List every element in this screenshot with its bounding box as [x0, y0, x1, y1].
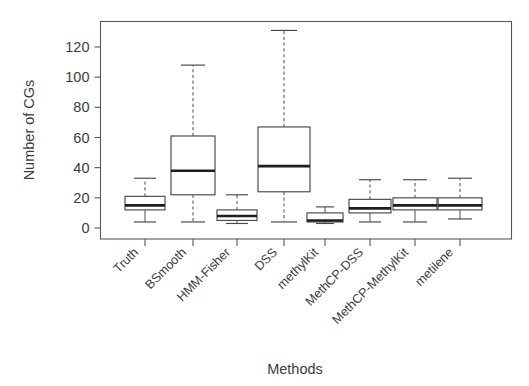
boxplot-metilene: [438, 178, 482, 219]
y-tick-label: 40: [73, 160, 89, 176]
boxplot-bsmooth: [171, 65, 215, 222]
y-tick-label: 80: [73, 99, 89, 115]
box-iqr: [258, 127, 310, 192]
x-tick-label: DSS: [252, 245, 280, 273]
y-tick-label: 60: [73, 130, 89, 146]
x-tick-label: MethCP-MethylKit: [329, 245, 411, 327]
y-tick-label: 120: [65, 39, 89, 55]
boxplot-figure: 020406080100120 TruthBSmoothHMM-FisherDS…: [0, 0, 529, 386]
y-axis: 020406080100120: [65, 39, 100, 236]
box-iqr: [438, 198, 482, 210]
y-tick-label: 0: [81, 220, 89, 236]
boxplot-methcp-dss: [349, 180, 391, 222]
boxplot-methylkit: [307, 207, 343, 224]
box-iqr: [393, 198, 437, 210]
box-iqr: [125, 196, 165, 210]
x-tick-labels: TruthBSmoothHMM-FisherDSSmethylKitMethCP…: [111, 245, 456, 327]
boxplot-canvas: 020406080100120 TruthBSmoothHMM-FisherDS…: [0, 0, 529, 386]
box-iqr: [349, 199, 391, 213]
y-tick-label: 100: [65, 69, 89, 85]
boxplot-dss: [258, 30, 310, 222]
box-iqr: [171, 136, 215, 195]
x-tick-label: Truth: [111, 245, 141, 275]
boxplot-truth: [125, 178, 165, 222]
x-tick-label: metilene: [413, 245, 457, 289]
y-tick-label: 20: [73, 190, 89, 206]
x-axis-title: Methods: [267, 361, 323, 377]
x-axis: [145, 239, 460, 246]
x-tick-label: BSmooth: [143, 245, 190, 292]
boxplot-hmm-fisher: [217, 195, 257, 224]
boxplot-methcp-methylkit: [393, 180, 437, 222]
y-axis-title: Number of CGs: [21, 80, 37, 181]
x-tick-label: methylKit: [275, 245, 322, 292]
box-series: [125, 30, 482, 223]
